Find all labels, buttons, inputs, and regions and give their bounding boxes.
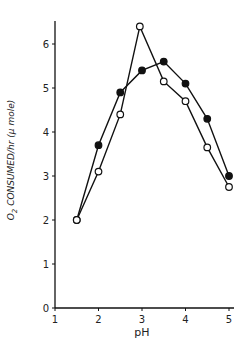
filled-circle-marker	[204, 116, 211, 123]
series-line	[77, 62, 229, 220]
x-tick-label: 1	[52, 314, 58, 325]
data-series	[73, 23, 232, 223]
y-axis-label: O2 CONSUMED/hr (μ mole)	[6, 100, 19, 220]
y-tick-label: 6	[43, 39, 49, 50]
open-circle-marker	[160, 78, 167, 85]
x-tick-label: 4	[182, 314, 188, 325]
y-tick-label: 0	[43, 303, 49, 314]
y-tick-label: 3	[43, 171, 49, 182]
open-circle-marker	[204, 144, 211, 151]
filled-circle-marker	[226, 173, 233, 180]
series-line	[77, 26, 229, 220]
y-tick-label: 4	[43, 127, 49, 138]
open-circle-marker	[73, 217, 80, 224]
filled-circle-marker	[182, 80, 189, 87]
open-circle-marker	[182, 98, 189, 105]
x-tick-label: 2	[95, 314, 101, 325]
ph-oxygen-chart: 012345612345 pH O2 CONSUMED/hr (μ mole)	[0, 0, 246, 361]
y-tick-label: 2	[43, 215, 49, 226]
filled-circle-marker	[117, 89, 124, 96]
y-tick-label: 5	[43, 83, 49, 94]
open-circle-marker	[137, 23, 144, 30]
open-circle-marker	[117, 111, 124, 118]
axes: 012345612345	[43, 21, 234, 325]
y-tick-label: 1	[43, 259, 49, 270]
filled-circle-marker	[95, 142, 102, 149]
x-tick-label: 3	[139, 314, 145, 325]
open-circle-marker	[95, 168, 102, 175]
open-circle-marker	[226, 184, 233, 191]
x-tick-label: 5	[226, 314, 232, 325]
filled-circle-marker	[160, 58, 167, 65]
filled-circle-marker	[139, 67, 146, 74]
x-axis-label: pH	[134, 326, 149, 339]
